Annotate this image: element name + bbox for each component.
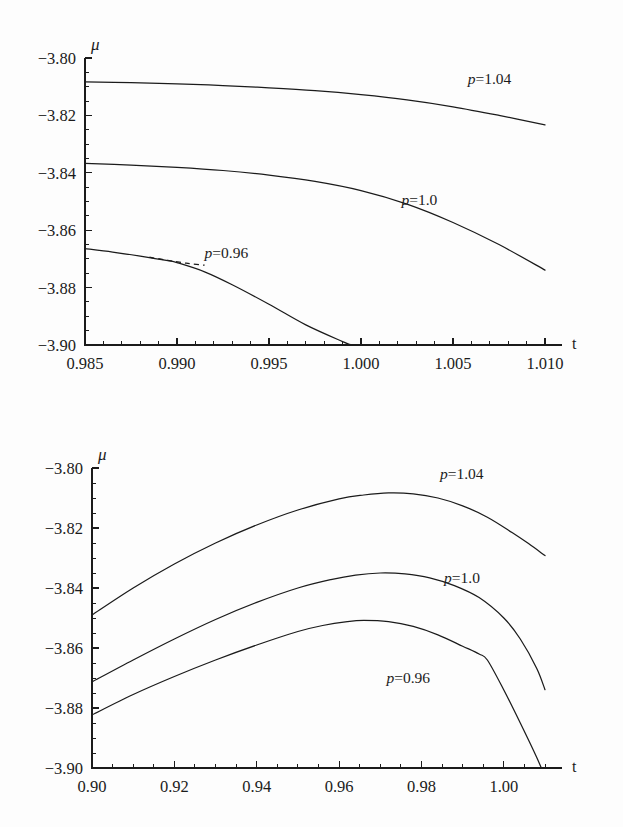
chart-bottom-panel: −3.90−3.88−3.86−3.84−3.82−3.800.900.920.… bbox=[0, 408, 623, 827]
series-label-p104: p=1.04 bbox=[467, 70, 512, 87]
x-tick-label: 0.90 bbox=[78, 777, 107, 796]
series-label-p104: p=1.04 bbox=[439, 465, 484, 482]
x-tick-label: 1.000 bbox=[342, 354, 379, 373]
x-tick-label: 0.92 bbox=[160, 777, 189, 796]
series-label-p10: p=1.0 bbox=[400, 191, 437, 208]
chart-top-svg: −3.90−3.88−3.86−3.84−3.82−3.800.9850.990… bbox=[0, 0, 623, 400]
series-label-p096: p=0.96 bbox=[385, 669, 430, 686]
curve-p10 bbox=[85, 163, 545, 270]
x-tick-label: 0.995 bbox=[250, 354, 287, 373]
y-tick-label: −3.80 bbox=[45, 459, 83, 478]
y-tick-label: −3.84 bbox=[45, 579, 83, 598]
y-tick-label: −3.90 bbox=[38, 336, 76, 355]
chart-bottom-svg: −3.90−3.88−3.86−3.84−3.82−3.800.900.920.… bbox=[0, 408, 623, 827]
x-tick-label: 0.990 bbox=[158, 354, 195, 373]
y-axis-label: μ bbox=[97, 445, 107, 464]
x-tick-label: 0.94 bbox=[242, 777, 271, 796]
series-label-p10: p=1.0 bbox=[443, 569, 480, 586]
bottom-axes bbox=[92, 468, 562, 768]
curve-p096 bbox=[92, 620, 545, 777]
figure-page: −3.90−3.88−3.86−3.84−3.82−3.800.9850.990… bbox=[0, 0, 623, 827]
top-axes bbox=[85, 58, 562, 345]
x-tick-label: 0.98 bbox=[407, 777, 436, 796]
bottom-labels: −3.90−3.88−3.86−3.84−3.82−3.800.900.920.… bbox=[45, 445, 577, 796]
top-labels: −3.90−3.88−3.86−3.84−3.82−3.800.9850.990… bbox=[38, 35, 577, 373]
series-label-p096: p=0.96 bbox=[204, 244, 249, 261]
x-tick-label: 0.985 bbox=[66, 354, 103, 373]
y-tick-label: −3.82 bbox=[38, 106, 76, 125]
y-tick-label: −3.86 bbox=[45, 639, 83, 658]
y-tick-label: −3.90 bbox=[45, 759, 83, 778]
x-axis-label: t bbox=[572, 335, 577, 352]
x-tick-label: 1.010 bbox=[526, 354, 563, 373]
y-tick-label: −3.80 bbox=[38, 49, 76, 68]
bottom-curves bbox=[92, 493, 545, 777]
x-tick-label: 1.005 bbox=[434, 354, 471, 373]
top-curves bbox=[85, 82, 545, 345]
y-tick-label: −3.88 bbox=[45, 699, 83, 718]
x-tick-label: 0.96 bbox=[325, 777, 354, 796]
y-axis-label: μ bbox=[90, 35, 100, 54]
chart-top-panel: −3.90−3.88−3.86−3.84−3.82−3.800.9850.990… bbox=[0, 0, 623, 400]
y-tick-label: −3.84 bbox=[38, 164, 76, 183]
y-tick-label: −3.82 bbox=[45, 519, 83, 538]
y-tick-label: −3.86 bbox=[38, 221, 76, 240]
curve-p096 bbox=[85, 249, 352, 345]
curve-p10 bbox=[92, 573, 545, 690]
x-axis-label: t bbox=[572, 758, 577, 775]
curve-p104 bbox=[85, 82, 545, 125]
y-tick-label: −3.88 bbox=[38, 279, 76, 298]
x-tick-label: 1.00 bbox=[489, 777, 518, 796]
